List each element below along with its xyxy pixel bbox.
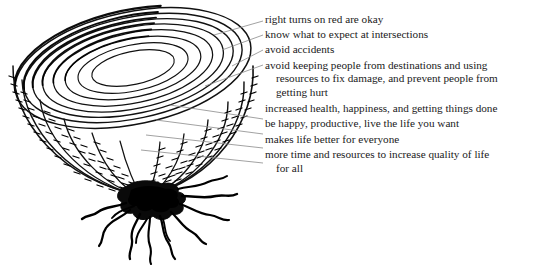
annotation-item: more time and resources to increase qual… <box>265 148 547 175</box>
annotation-text-cont: for all <box>265 162 547 176</box>
leader-line-4 <box>205 65 263 86</box>
annotation-item: avoid keeping people from destinations a… <box>265 59 547 100</box>
annotation-text: avoid accidents <box>265 43 334 55</box>
annotation-text: know what to expect at intersections <box>265 28 428 40</box>
annotation-item: avoid accidents <box>265 43 547 57</box>
annotation-text: more time and resources to increase qual… <box>265 148 489 160</box>
annotation-item: know what to expect at intersections <box>265 28 547 42</box>
annotation-item: right turns on red are okay <box>265 13 547 27</box>
annotation-text-cont: resources to fix damage, and prevent peo… <box>265 72 547 86</box>
annotation-text-cont: getting hurt <box>265 86 547 100</box>
annotation-text: right turns on red are okay <box>265 13 383 25</box>
annotation-text: be happy, productive, live the life you … <box>265 117 459 129</box>
annotation-item: makes life better for everyone <box>265 133 547 147</box>
annotation-list: right turns on red are okay know what to… <box>265 13 547 177</box>
figure-canvas: right turns on red are okay know what to… <box>0 0 547 275</box>
annotation-text: makes life better for everyone <box>265 133 399 145</box>
leader-line-6 <box>156 120 263 134</box>
onion-root-base <box>118 181 186 220</box>
annotation-item: increased health, happiness, and getting… <box>265 102 547 116</box>
onion-body-seams <box>13 66 253 196</box>
annotation-item: be happy, productive, live the life you … <box>265 117 547 131</box>
annotation-text: avoid keeping people from destinations a… <box>265 59 487 71</box>
leader-line-5 <box>170 105 263 119</box>
annotation-text: increased health, happiness, and getting… <box>265 102 497 114</box>
